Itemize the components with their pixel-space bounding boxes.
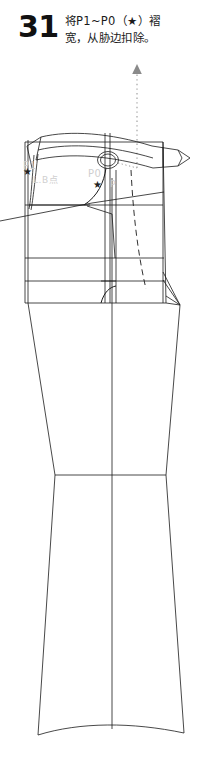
waistband-top-edge [41, 133, 152, 146]
page-root: 31 将P1~P0（★）褶 宽，从胁边扣除。 [0, 0, 204, 774]
waistband-bottom-edge [36, 156, 153, 168]
construction-block [25, 142, 166, 303]
point-label-p1: P1 [23, 160, 36, 171]
waistband [27, 133, 153, 168]
belt-tab-outline [152, 146, 190, 168]
leg-left-outline [28, 303, 55, 735]
pocket-bag-side [87, 206, 115, 258]
dotted-leader-button [118, 163, 137, 168]
star-marker-right: ★ [93, 179, 102, 190]
construction-right-edge [163, 142, 166, 303]
leg-right-outline [166, 305, 184, 733]
waistband-inner-seam [38, 146, 153, 158]
dotted-up-arrow [132, 64, 142, 168]
point-label-p: P [110, 179, 116, 189]
point-label-p0: P0 [88, 168, 101, 179]
dashed-crease-line [131, 170, 146, 289]
point-label-lb: L.B点 [33, 173, 58, 186]
pattern-drawing: ★ ★ [0, 0, 204, 774]
button-icon [98, 152, 119, 169]
button-inner-ring [101, 154, 116, 166]
hem-line [38, 725, 184, 735]
trouser-leg [28, 303, 184, 735]
fly-bottom-curve [101, 286, 116, 303]
waistband-left-end [36, 137, 41, 160]
belt-tab-point [152, 146, 190, 168]
waistband-left-extension [27, 137, 41, 146]
